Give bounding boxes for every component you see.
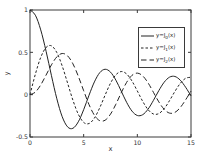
x-axis-label: x <box>108 145 112 153</box>
y-tick-label: 0.5 <box>18 49 28 56</box>
x-tick-label: 10 <box>133 139 141 146</box>
y-tick-label: -0.5 <box>16 133 28 140</box>
x-tick-label: 0 <box>28 139 32 146</box>
y-tick-label: 1 <box>24 6 28 13</box>
legend-line-sample <box>141 45 154 51</box>
legend-line-sample <box>141 33 154 39</box>
legend-item-1: y=J1(x) <box>141 42 182 54</box>
legend-label: y=J2(x) <box>156 57 175 64</box>
legend-box: y=J0(x)y=J1(x)y=J2(x) <box>138 27 185 68</box>
x-tick-label: 15 <box>187 139 195 146</box>
y-tick-label: 0 <box>24 91 28 98</box>
legend-label: y=J1(x) <box>156 45 175 52</box>
y-axis-label: y <box>3 71 11 75</box>
legend-item-0: y=J0(x) <box>141 30 182 42</box>
plot-canvas: 051015-0.500.51 x y <box>0 0 200 156</box>
bessel-function-figure: 051015-0.500.51 x y y=J0(x)y=J1(x)y=J2(x… <box>0 0 200 156</box>
legend-item-2: y=J2(x) <box>141 54 182 66</box>
legend-label: y=J0(x) <box>156 33 175 40</box>
legend-line-sample <box>141 57 154 63</box>
x-tick-label: 5 <box>82 139 86 146</box>
